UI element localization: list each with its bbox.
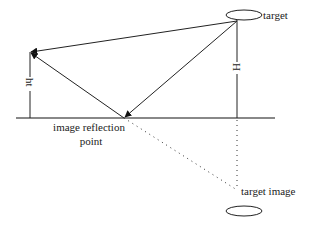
target-ellipse [226,10,262,20]
target-image-label: target image [241,185,296,197]
reflection-diagram: ht H target target image image reflectio… [0,0,317,227]
target-image-ellipse [226,206,262,216]
receiver-height-label: ht [24,78,36,87]
reflection-point-label-line1: image reflection [53,121,125,133]
reflection-point-label-line2: point [80,135,103,147]
target-height-label: H [231,63,243,71]
image-path-dotted [124,118,237,190]
target-label: target [263,9,288,21]
reflected-path-arrow [31,53,124,118]
